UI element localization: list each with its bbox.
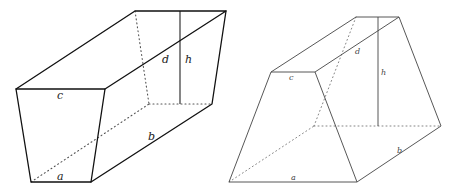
left-hidden-edge-back-left — [135, 11, 149, 104]
left-right-face-edges — [91, 11, 226, 182]
left-label-b: b — [148, 130, 155, 143]
left-front-face — [16, 89, 105, 182]
right-label-c: c — [289, 73, 294, 82]
left-top-face-edges — [16, 11, 226, 89]
right-hidden-edge-back-left — [314, 17, 356, 126]
right-label-h: h — [381, 68, 386, 77]
left-hidden-edge-bottom-diagonal — [31, 104, 149, 182]
right-right-face-edges — [357, 17, 441, 182]
right-solid: c a b d h — [229, 17, 441, 182]
left-label-h: h — [185, 53, 192, 66]
right-label-b: b — [397, 146, 402, 155]
left-label-d: d — [162, 53, 169, 66]
right-top-face-edges — [271, 17, 399, 72]
right-label-d: d — [355, 47, 360, 56]
right-label-a: a — [291, 173, 296, 182]
right-hidden-edge-bottom-diagonal — [229, 126, 314, 182]
left-label-a: a — [57, 170, 64, 183]
left-label-c: c — [57, 89, 63, 102]
right-front-face — [229, 72, 357, 182]
prismatoid-diagram: c a b d h c a b d h — [0, 0, 454, 193]
left-solid: c a b d h — [16, 11, 226, 183]
